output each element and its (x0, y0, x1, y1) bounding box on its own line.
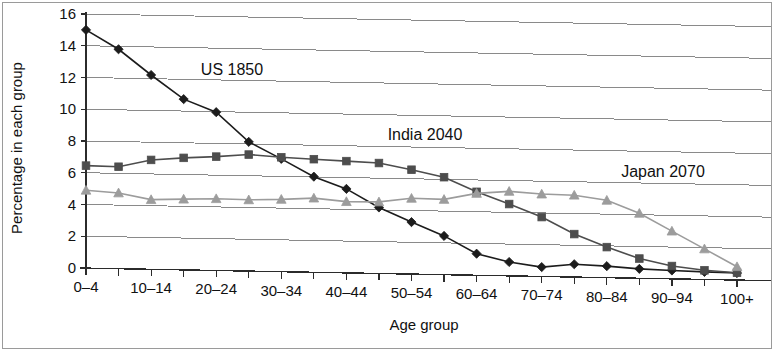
data-point-marker (278, 153, 286, 161)
line-chart: 0246810121416 0–410–1420–2430–3440–4450–… (0, 0, 773, 350)
x-tick-label: 80–84 (586, 288, 628, 305)
y-axis-tick-labels: 0246810121416 (59, 5, 76, 276)
data-point-marker (342, 184, 351, 193)
data-point-marker (408, 166, 416, 174)
y-tick-label: 10 (59, 100, 76, 117)
x-axis-title: Age group (389, 316, 458, 333)
data-point-marker (505, 257, 514, 266)
data-point-marker (343, 157, 351, 165)
data-point-marker (180, 154, 188, 162)
x-tick-label: 30–34 (260, 282, 302, 299)
x-tick-label: 60–64 (456, 285, 498, 302)
y-tick-label: 8 (68, 132, 76, 149)
data-point-marker (732, 262, 742, 271)
x-tick-label: 40–44 (326, 283, 368, 300)
y-tick-label: 2 (68, 227, 76, 244)
data-point-marker (407, 217, 416, 226)
data-point-marker (147, 156, 155, 164)
data-point-marker (505, 200, 513, 208)
data-point-marker (602, 262, 611, 271)
y-tick-label: 0 (68, 259, 76, 276)
data-point-marker (310, 155, 318, 163)
series-annotations: US 1850India 2040Japan 2070 (201, 61, 705, 180)
data-point-marker (212, 153, 220, 161)
data-point-marker (635, 209, 645, 218)
data-point-marker (636, 255, 644, 263)
y-tick-label: 6 (68, 164, 76, 181)
y-tick-label: 16 (59, 5, 76, 22)
data-point-marker (245, 151, 253, 159)
data-point-marker (603, 243, 611, 251)
data-point-marker (701, 267, 709, 275)
data-point-marker (82, 162, 90, 170)
gridlines (81, 14, 771, 281)
x-axis-tick-labels: 0–410–1420–2430–3440–4450–5460–6470–7480… (73, 278, 754, 307)
x-tick-label: 50–54 (391, 284, 433, 301)
x-tick-label: 0–4 (73, 278, 98, 295)
series-label-japan-2070: Japan 2070 (621, 163, 705, 180)
data-point-marker (570, 230, 578, 238)
data-point-marker (538, 213, 546, 221)
data-point-marker (81, 25, 90, 34)
y-tick-label: 14 (59, 37, 76, 54)
data-point-marker (668, 262, 676, 270)
y-tick-label: 4 (68, 196, 76, 213)
x-tick-label: 20–24 (195, 280, 237, 297)
x-tick-label: 10–14 (130, 279, 172, 296)
data-point-marker (440, 173, 448, 181)
data-point-marker (439, 231, 448, 240)
chart-container: 0246810121416 0–410–1420–2430–3440–4450–… (0, 0, 773, 350)
data-point-marker (667, 226, 677, 235)
data-point-marker (375, 159, 383, 167)
x-tick-label: 70–74 (521, 286, 563, 303)
data-point-marker (309, 172, 318, 181)
data-point-marker (635, 264, 644, 273)
x-tick-label: 100+ (720, 290, 754, 307)
y-axis-title: Percentage in each group (8, 62, 25, 234)
data-point-marker (570, 260, 579, 269)
series-label-us-1850: US 1850 (201, 61, 263, 78)
data-point-marker (472, 249, 481, 258)
series-label-india-2040: India 2040 (388, 126, 463, 143)
data-point-marker (700, 244, 710, 253)
x-tick-label: 90–94 (651, 289, 693, 306)
data-point-marker (115, 163, 123, 171)
y-tick-label: 12 (59, 69, 76, 86)
data-point-marker (537, 262, 546, 271)
